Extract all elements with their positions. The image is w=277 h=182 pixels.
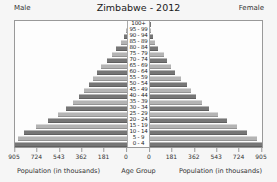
female-bar [150, 64, 171, 69]
male-bars-region [15, 21, 127, 147]
male-bar [24, 130, 127, 135]
tick-label: 0 [124, 153, 128, 160]
female-bar-row [150, 141, 262, 147]
female-bar [150, 112, 218, 117]
male-bar [89, 82, 127, 87]
plot-area: 100+95 - 9990 - 9485 - 8980 - 8475 - 797… [14, 20, 263, 148]
male-bar-row [15, 141, 127, 147]
age-group-label: 0 - 4 [128, 141, 149, 147]
female-bar [150, 136, 257, 141]
female-bar [150, 76, 181, 81]
tick-label: 181 [98, 153, 109, 160]
tick-label: 181 [166, 153, 177, 160]
right-x-axis-title: Population (in thousands) [179, 167, 262, 175]
female-bar [150, 124, 237, 129]
tick-label: 543 [210, 153, 221, 160]
male-bar [93, 76, 127, 81]
male-bar [116, 46, 127, 51]
male-bar [48, 118, 127, 123]
female-bar [150, 88, 191, 93]
age-group-labels-column: 100+95 - 9990 - 9485 - 8980 - 8475 - 797… [127, 21, 150, 147]
female-bar [150, 46, 158, 51]
male-bar [79, 94, 127, 99]
female-bar [150, 142, 262, 147]
female-bar [150, 52, 164, 57]
male-bar [84, 88, 127, 93]
x-axis: 905 724 543 362 181 0 0 181 362 543 724 … [14, 148, 263, 162]
female-bar [150, 34, 153, 39]
tick-label: 0 [147, 153, 151, 160]
tick-label: 362 [75, 153, 86, 160]
tick-label: 905 [255, 153, 266, 160]
female-axis-ticks: 0 181 362 543 724 905 [149, 148, 261, 162]
male-bar [66, 106, 127, 111]
male-bar [73, 100, 127, 105]
female-bar [150, 106, 209, 111]
chart-title: Zimbabwe - 2012 [0, 2, 277, 13]
male-bar [36, 124, 127, 129]
male-bar [58, 112, 127, 117]
tick-label: 905 [8, 153, 19, 160]
male-bar [112, 52, 127, 57]
male-axis-ticks: 905 724 543 362 181 0 [14, 148, 126, 162]
female-bar [150, 118, 227, 123]
tick-label: 362 [188, 153, 199, 160]
female-bar [150, 28, 151, 33]
tick-label: 724 [31, 153, 42, 160]
male-bar [97, 70, 127, 75]
female-bar [150, 58, 167, 63]
female-bar [150, 70, 175, 75]
male-bar [18, 136, 127, 141]
tick-label: 543 [53, 153, 64, 160]
female-bar [150, 100, 202, 105]
female-bar [150, 130, 247, 135]
male-bar [101, 64, 127, 69]
female-bar [150, 82, 187, 87]
tick-label: 724 [233, 153, 244, 160]
male-bar [15, 142, 127, 147]
population-pyramid-chart: Male Zimbabwe - 2012 Female 100+95 - 999… [0, 0, 277, 182]
female-bar [150, 94, 196, 99]
female-bars-region [150, 21, 262, 147]
male-bar [107, 58, 127, 63]
female-side-header: Female [239, 4, 264, 12]
female-bar [150, 40, 155, 45]
